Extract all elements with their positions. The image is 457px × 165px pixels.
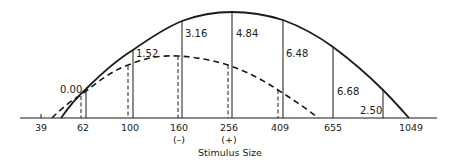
value-label-5: 6.68 [337,86,359,97]
x-tick-label-62: 62 [77,122,89,133]
x-tick-label-256: 256 [220,122,238,133]
x-tick-label-160: 160 [170,122,188,133]
solid-verticals [86,12,383,118]
x-tick-sub-minus: (–) [173,134,185,145]
x-tick-sub-plus: (+) [221,134,236,145]
value-label-2: 3.16 [185,28,207,39]
dashed-curve [52,56,318,118]
value-label-3: 4.84 [236,28,258,39]
x-tick-label-39: 39 [35,122,47,133]
x-tick-label-409: 409 [271,122,289,133]
x-tick-label-655: 655 [324,122,342,133]
generalization-chart: 0.00 1.52 3.16 4.84 6.48 6.68 2.50 39 62… [0,0,457,165]
solid-curve [61,12,409,118]
x-tick-label-1049: 1049 [399,122,423,133]
value-label-4: 6.48 [286,48,308,59]
x-axis-title: Stimulus Size [198,147,262,158]
value-label-1: 1.52 [136,48,158,59]
value-label-0: 0.00 [60,84,82,95]
value-label-6: 2.50 [360,105,382,116]
x-tick-label-100: 100 [121,122,139,133]
